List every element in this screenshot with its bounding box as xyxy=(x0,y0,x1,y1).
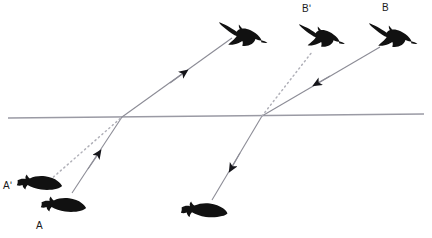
ray-bird-arrowhead-water xyxy=(231,153,240,169)
ray-fish-arrowhead-water xyxy=(88,153,99,169)
label-b-prime: Bʹ xyxy=(302,4,311,14)
ray-apparent-fish xyxy=(50,117,122,180)
label-a: A xyxy=(36,221,43,231)
bird-real xyxy=(369,23,418,47)
ray-apparent-bird xyxy=(262,52,312,116)
label-a-prime: Aʹ xyxy=(3,181,12,191)
water-surface-line xyxy=(8,114,424,118)
fish-real-right xyxy=(181,201,228,217)
label-b: B xyxy=(382,3,389,13)
refraction-diagram: Aʹ A Bʹ B xyxy=(0,0,432,238)
ray-fish-arrowhead-air xyxy=(170,72,185,83)
bird-apparent xyxy=(299,24,345,47)
ray-bird-arrowhead-air xyxy=(316,76,330,84)
fish-apparent-left xyxy=(17,174,62,189)
fish-real-left xyxy=(41,196,86,211)
diagram-canvas xyxy=(0,0,432,238)
